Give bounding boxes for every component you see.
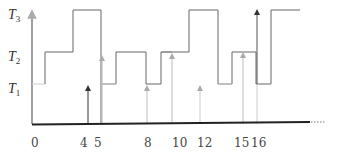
tick-label: 10 [172,136,187,150]
tick-label: 12 [197,136,212,150]
step-diagram: T3 T2 T1 0 4 5 8 10 12 15 16 [0,0,339,155]
x-axis [32,122,310,125]
tick-label: 16 [251,136,266,150]
level-label-t2: T2 [8,49,20,66]
tick-label: 15 [234,136,249,150]
level-label-t3: T3 [8,7,21,24]
tick-label: 4 [80,136,88,150]
x-tick-labels: 0 4 5 8 10 12 15 16 [31,136,266,150]
tick-label: 0 [31,136,39,150]
tick-label: 5 [94,136,102,150]
level-label-t1: T1 [8,81,20,98]
y-level-labels: T3 T2 T1 [8,7,21,98]
step-path-1 [45,10,101,124]
step-path-3 [218,10,300,84]
tick-label: 8 [144,136,152,150]
step-path-2 [101,10,218,84]
